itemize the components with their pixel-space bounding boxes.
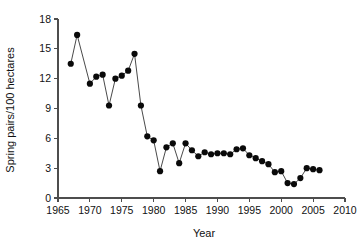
data-point	[131, 51, 137, 57]
x-axis: 1965197019751980198519901995200020052010	[46, 198, 357, 216]
y-axis-tick-label: 15	[39, 42, 51, 54]
data-point	[182, 140, 188, 146]
x-axis-tick-label: 1980	[142, 204, 166, 216]
data-point	[106, 102, 112, 108]
y-axis-title: Spring pairs/100 hectares	[4, 47, 16, 173]
y-axis-tick-label: 18	[39, 13, 51, 25]
data-point	[74, 32, 80, 38]
data-point	[119, 73, 125, 79]
data-point	[100, 72, 106, 78]
data-point	[297, 175, 303, 181]
x-axis-tick-label: 2000	[270, 204, 294, 216]
x-axis-tick-label: 1985	[174, 204, 198, 216]
data-point	[240, 145, 246, 151]
data-point	[221, 150, 227, 156]
data-point	[310, 166, 316, 172]
data-point	[233, 146, 239, 152]
x-axis-title: Year	[193, 227, 216, 239]
data-point	[285, 180, 291, 186]
series-polyline	[71, 35, 320, 184]
data-point	[157, 168, 163, 174]
data-point	[208, 151, 214, 157]
y-axis-tick-label: 9	[45, 102, 51, 114]
data-point	[189, 147, 195, 153]
line-chart: 0369121518 19651970197519801985199019952…	[0, 0, 362, 250]
chart-figure: 0369121518 19651970197519801985199019952…	[0, 0, 362, 250]
y-axis: 0369121518	[39, 13, 58, 204]
x-axis-tick-label: 1970	[78, 204, 102, 216]
y-axis-tick-label: 0	[45, 192, 51, 204]
data-point	[202, 149, 208, 155]
data-point	[291, 181, 297, 187]
data-point	[195, 153, 201, 159]
data-series	[68, 32, 323, 187]
data-point	[246, 152, 252, 158]
data-point	[253, 155, 259, 161]
y-axis-tick-label: 3	[45, 162, 51, 174]
data-point	[138, 102, 144, 108]
data-point	[259, 158, 265, 164]
x-axis-tick-label: 2010	[333, 204, 357, 216]
x-axis-tick-label: 1990	[206, 204, 230, 216]
data-point	[304, 165, 310, 171]
data-point	[112, 76, 118, 82]
data-point	[68, 61, 74, 67]
data-point	[278, 168, 284, 174]
data-point	[272, 169, 278, 175]
x-axis-tick-label: 1975	[110, 204, 134, 216]
x-axis-tick-label: 2005	[301, 204, 325, 216]
data-point	[170, 140, 176, 146]
data-point	[176, 160, 182, 166]
data-point	[316, 167, 322, 173]
data-point	[87, 81, 93, 87]
x-axis-tick-label: 1995	[238, 204, 262, 216]
data-point	[144, 133, 150, 139]
y-axis-tick-label: 12	[39, 72, 51, 84]
data-point	[214, 150, 220, 156]
y-axis-tick-label: 6	[45, 132, 51, 144]
data-point	[163, 144, 169, 150]
x-axis-tick-label: 1965	[46, 204, 70, 216]
data-point	[93, 74, 99, 80]
data-point	[265, 161, 271, 167]
data-point	[151, 137, 157, 143]
data-point	[125, 68, 131, 74]
data-point	[227, 151, 233, 157]
